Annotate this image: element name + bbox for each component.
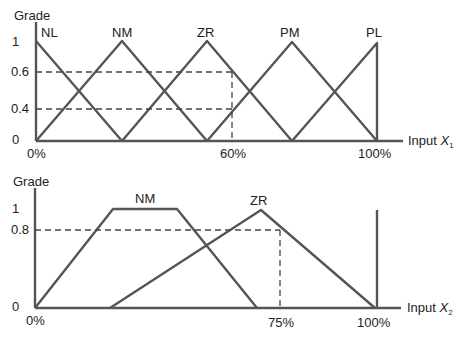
- top-zr-curve: [122, 41, 292, 141]
- bottom-ytick-1: 1: [12, 202, 19, 216]
- top-set-pm: PM: [280, 26, 300, 40]
- top-set-nl: NL: [41, 26, 58, 40]
- bottom-ytick-08: 0.8: [11, 223, 29, 237]
- top-axis-var: X: [441, 133, 450, 148]
- bottom-x-axis-label: Input X2: [407, 301, 453, 320]
- top-set-pl: PL: [366, 26, 382, 40]
- top-set-zr: ZR: [197, 26, 214, 40]
- top-set-nm: NM: [112, 26, 132, 40]
- bottom-xtick-100: 100%: [357, 316, 390, 330]
- top-xtick-0: 0%: [27, 147, 46, 161]
- top-xtick-100: 100%: [358, 147, 391, 161]
- bottom-axis-var: X: [440, 300, 449, 315]
- top-xtick-60: 60%: [220, 147, 246, 161]
- top-axis-text: Input: [408, 133, 441, 148]
- top-ytick-04: 0.4: [11, 102, 29, 116]
- bottom-axis-sub: 2: [448, 308, 452, 317]
- bottom-zr-curve: [110, 210, 375, 308]
- bottom-xtick-75: 75%: [268, 316, 294, 330]
- top-x-axis-label: Input X1: [408, 134, 454, 153]
- bottom-nm-curve: [35, 209, 257, 308]
- top-axis-sub: 1: [449, 141, 453, 150]
- top-ytick-0: 0: [12, 133, 19, 147]
- top-ytick-06: 0.6: [11, 65, 29, 79]
- top-y-label: Grade: [14, 9, 50, 23]
- bottom-y-label: Grade: [13, 175, 49, 189]
- bottom-axis-text: Input: [407, 300, 440, 315]
- bottom-set-zr: ZR: [250, 194, 267, 208]
- top-nm-curve: [36, 41, 207, 141]
- bottom-set-nm: NM: [135, 192, 155, 206]
- bottom-ytick-0: 0: [12, 300, 19, 314]
- top-ytick-1: 1: [12, 35, 19, 49]
- bottom-xtick-0: 0%: [26, 314, 45, 328]
- membership-plots: [0, 0, 464, 343]
